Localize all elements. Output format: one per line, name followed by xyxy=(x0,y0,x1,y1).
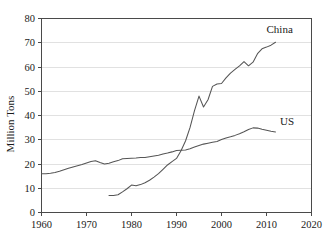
x-axis-ticks xyxy=(42,213,312,217)
x-tick-label-1960: 1960 xyxy=(31,219,52,230)
line-chart-figure: 01020304050607080 1960197019801990200020… xyxy=(0,0,329,252)
series-line-china xyxy=(109,42,276,195)
x-tick-label-2010: 2010 xyxy=(256,219,277,230)
chart-canvas: 01020304050607080 1960197019801990200020… xyxy=(0,0,329,252)
y-tick-label-40: 40 xyxy=(25,110,36,121)
series-label-china: China xyxy=(267,23,293,35)
y-tick-label-80: 80 xyxy=(25,13,36,24)
x-tick-label-1990: 1990 xyxy=(166,219,187,230)
y-tick-label-20: 20 xyxy=(25,159,36,170)
y-axis-tick-labels: 01020304050607080 xyxy=(25,13,36,218)
x-tick-label-1970: 1970 xyxy=(76,219,97,230)
series-line-us xyxy=(42,128,276,174)
gridlines xyxy=(42,43,312,213)
y-tick-label-10: 10 xyxy=(25,183,36,194)
y-tick-label-30: 30 xyxy=(25,134,36,145)
y-tick-label-0: 0 xyxy=(30,207,35,218)
x-tick-label-2020: 2020 xyxy=(301,219,322,230)
series-label-us: US xyxy=(280,115,294,127)
x-axis-tick-labels: 1960197019801990200020102020 xyxy=(31,219,322,230)
x-tick-label-1980: 1980 xyxy=(121,219,142,230)
y-tick-label-50: 50 xyxy=(25,86,36,97)
x-tick-label-2000: 2000 xyxy=(211,219,232,230)
data-series xyxy=(42,42,276,195)
y-tick-label-60: 60 xyxy=(25,62,36,73)
y-tick-label-70: 70 xyxy=(25,37,36,48)
y-axis-title: Million Tons xyxy=(4,96,16,153)
y-axis-ticks xyxy=(38,19,42,213)
